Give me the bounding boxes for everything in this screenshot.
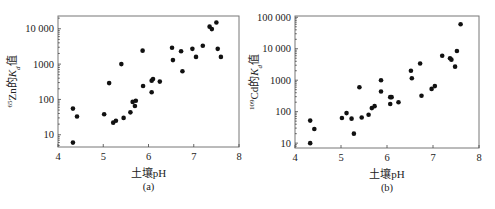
data-point [128, 110, 133, 115]
data-point [140, 48, 145, 53]
x-tick-label: 7 [191, 151, 196, 162]
data-point [455, 49, 460, 54]
data-point [201, 43, 206, 48]
data-point [180, 69, 185, 74]
data-point [158, 79, 163, 84]
data-point [194, 55, 199, 60]
data-point [102, 112, 107, 117]
data-point [149, 90, 154, 95]
data-point [419, 93, 424, 98]
data-point [107, 81, 112, 86]
data-point [340, 116, 345, 121]
x-tick-label: 5 [101, 151, 106, 162]
data-point [133, 104, 138, 109]
data-point [359, 115, 364, 120]
data-point [171, 58, 176, 63]
y-label-superscript: 109 [248, 99, 256, 110]
data-point [366, 112, 371, 117]
data-points-b [308, 22, 463, 145]
data-point [170, 45, 175, 50]
data-point [410, 76, 415, 81]
y-tick-label: 10 [44, 129, 55, 140]
x-tick-label: 8 [236, 151, 241, 162]
y-label-suffix: 值 [6, 55, 18, 66]
data-point [75, 114, 80, 119]
data-point [352, 131, 357, 136]
data-point [215, 47, 220, 52]
x-tick-label: 4 [55, 151, 61, 162]
x-tick-label: 8 [476, 152, 481, 163]
x-tick-label: 4 [292, 152, 298, 163]
data-point [71, 106, 76, 111]
plot-frame-b [295, 16, 479, 148]
panel-label-a: (a) [143, 181, 155, 193]
x-axis-label-a: 土壤pH [131, 166, 167, 179]
data-point [344, 111, 349, 116]
y-tick-label: 1000 [33, 59, 54, 70]
y-label-main: Cd的 [247, 76, 260, 100]
data-point [449, 57, 454, 62]
data-point [119, 62, 124, 67]
data-points-a [71, 20, 224, 145]
data-point [121, 116, 126, 121]
data-point [409, 68, 414, 73]
data-point [453, 64, 458, 69]
panel-label-b: (b) [381, 182, 394, 194]
x-tick-label: 6 [384, 152, 389, 163]
chart-panel-a: 45678 10100100010 000 土壤pH 65Zn的Kd值 (a) [5, 16, 242, 193]
data-point [379, 89, 384, 94]
data-point [308, 141, 313, 146]
y-ticks-b: 10100100010 000100 000 [257, 12, 298, 149]
data-point [418, 61, 423, 66]
y-tick-label: 1000 [270, 75, 291, 86]
data-point [389, 95, 394, 100]
data-point [190, 47, 195, 52]
y-tick-label: 100 [275, 106, 291, 117]
data-point [388, 102, 393, 107]
x-tick-label: 6 [146, 151, 151, 162]
chart-panel-b: 45678 10100100010 000100 000 土壤pH 109Cd的… [247, 12, 482, 194]
y-label-main: Zn的 [5, 77, 18, 100]
figure: 45678 10100100010 000 土壤pH 65Zn的Kd值 (a) … [0, 0, 495, 209]
data-point [141, 84, 146, 89]
y-tick-label: 100 [38, 94, 54, 105]
x-axis-label-b: 土壤pH [369, 167, 405, 180]
data-point [210, 27, 215, 32]
y-tick-label: 10 000 [262, 43, 291, 54]
x-tick-label: 5 [338, 152, 343, 163]
data-point [214, 20, 219, 25]
data-point [372, 104, 377, 109]
y-axis-label-a: 65Zn的Kd值 [5, 55, 22, 107]
data-point [312, 127, 317, 132]
y-tick-label: 10 000 [25, 23, 54, 34]
data-point [458, 22, 463, 27]
data-point [151, 77, 156, 82]
data-point [357, 85, 362, 90]
y-axis-label-b: 109Cd的Kd值 [247, 54, 264, 110]
data-point [114, 118, 119, 123]
y-ticks-a: 10100100010 000 [25, 18, 61, 145]
data-point [379, 78, 384, 83]
data-point [433, 84, 438, 89]
data-point [134, 98, 139, 103]
data-point [308, 118, 313, 123]
y-tick-label: 10 [281, 138, 292, 149]
data-point [396, 100, 401, 105]
data-point [71, 140, 76, 145]
y-label-suffix: 值 [248, 54, 260, 65]
data-point [219, 55, 224, 60]
data-point [440, 53, 445, 58]
data-point [349, 116, 354, 121]
y-tick-label: 100 000 [257, 12, 291, 23]
plot-frame-a [58, 16, 239, 147]
data-point [179, 49, 184, 54]
x-tick-label: 7 [430, 152, 435, 163]
